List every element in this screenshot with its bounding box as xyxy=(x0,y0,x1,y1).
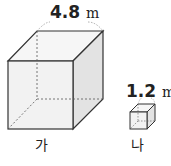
dimension-arc-a xyxy=(37,22,103,31)
cube-b-edge-label: 1.2 m xyxy=(126,81,171,101)
cube-a-edge-label: 4.8 m xyxy=(50,2,99,22)
cube-b-name: 나 xyxy=(131,134,144,154)
cube-a xyxy=(8,22,103,129)
cube-b xyxy=(130,98,155,129)
cube-a-name: 가 xyxy=(35,134,48,154)
